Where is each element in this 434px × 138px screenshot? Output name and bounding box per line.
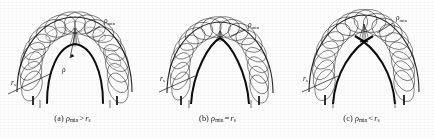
rho-label: ρ	[61, 65, 66, 74]
panel-a-caption-operand-sub: s	[89, 117, 91, 123]
panel-b-caption-tag: (b)	[199, 114, 209, 123]
panel-a-diagram: ρmin rs ρ	[0, 0, 145, 112]
panel-c: ρmin rs (c) ρmin<rs	[289, 0, 434, 138]
panel-b-caption-symbol-sub: min	[215, 117, 223, 123]
panel-a-caption-tag: (a)	[54, 114, 63, 123]
rho-min-label: ρmin	[247, 20, 260, 30]
rs-label: rs	[11, 78, 16, 87]
panel-c-caption: (c) ρmin<rs	[289, 112, 434, 126]
rho-min-label: ρmin	[395, 13, 408, 23]
rs-label: rs	[303, 74, 308, 83]
panel-a: ρmin rs ρ (a) ρmin>rs	[0, 0, 145, 138]
panel-c-caption-tag: (c)	[343, 114, 352, 123]
figure-container: ρmin rs ρ (a) ρmin>rs	[0, 0, 434, 138]
rho-min-label: ρmin	[103, 16, 116, 26]
panel-a-caption: (a) ρmin>rs	[0, 112, 145, 126]
panel-c-diagram: ρmin rs	[289, 0, 434, 112]
panel-b-caption-operand-sub: s	[234, 117, 236, 123]
panel-b-caption: (b) ρmin=rs	[145, 112, 290, 126]
rs-label: rs	[160, 74, 165, 83]
panel-b: ρmin rs (b) ρmin=rs	[145, 0, 290, 138]
panel-b-diagram: ρmin rs	[145, 0, 290, 112]
panel-c-caption-operand-sub: s	[378, 117, 380, 123]
